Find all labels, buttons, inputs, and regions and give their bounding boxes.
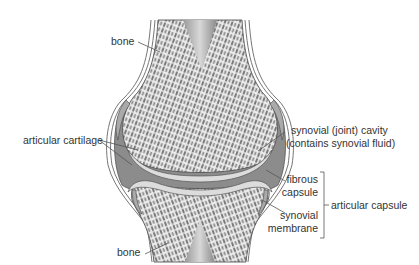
label-synovial-cavity-2: (contains synovial fluid) — [286, 137, 395, 149]
label-synovial-cavity-1: synovial (joint) cavity — [291, 124, 388, 136]
label-articular-cartilage: articular cartilage — [23, 134, 103, 146]
label-bone-bottom: bone — [117, 246, 140, 258]
label-bone-top: bone — [111, 35, 134, 47]
label-fibrous-capsule-1: fibrous — [286, 173, 318, 185]
label-synovial-membrane-1: synovial — [280, 209, 318, 221]
synovial-joint-diagram: bone articular cartilage synovial (joint… — [0, 0, 419, 265]
label-synovial-membrane-2: membrane — [268, 222, 318, 234]
label-fibrous-capsule-2: capsule — [282, 186, 318, 198]
label-articular-capsule: articular capsule — [331, 199, 407, 211]
